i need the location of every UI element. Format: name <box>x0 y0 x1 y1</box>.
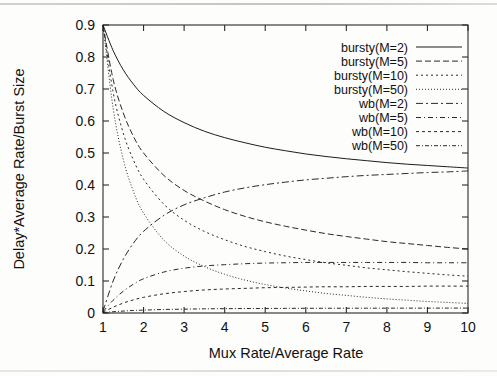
legend-label: wb(M=50) <box>351 139 408 153</box>
x-tick-label: 2 <box>140 319 148 335</box>
x-tick-label: 10 <box>460 319 476 335</box>
legend-label: wb(M=5) <box>358 111 408 125</box>
curve-wbm2 <box>103 171 468 311</box>
chart-legend: bursty(M=2)bursty(M=5)bursty(M=10)bursty… <box>334 41 462 154</box>
y-axis-tick-labels: 00.10.20.30.40.50.60.70.80.9 <box>76 17 96 321</box>
x-tick-label: 7 <box>342 319 350 335</box>
curve-burstym5 <box>103 25 468 249</box>
legend-label: bursty(M=5) <box>341 55 408 69</box>
chart-canvas: 00.10.20.30.40.50.60.70.80.9 12345678910… <box>0 0 497 376</box>
y-tick-label: 0.2 <box>76 241 96 257</box>
y-tick-label: 0.3 <box>76 209 96 225</box>
legend-label: bursty(M=2) <box>341 41 408 55</box>
legend-label: bursty(M=10) <box>334 69 408 83</box>
y-tick-label: 0.8 <box>76 49 96 65</box>
chart-figure: 00.10.20.30.40.50.60.70.80.9 12345678910… <box>0 0 497 376</box>
x-tick-label: 8 <box>383 319 391 335</box>
legend-label: bursty(M=50) <box>334 83 408 97</box>
legend-label: wb(M=2) <box>358 97 408 111</box>
curve-burstym2 <box>103 25 468 168</box>
x-tick-label: 3 <box>180 319 188 335</box>
curve-wbm50 <box>103 308 468 313</box>
y-tick-label: 0.5 <box>76 145 96 161</box>
y-tick-label: 0.9 <box>76 17 96 33</box>
curve-wbm5 <box>103 262 468 311</box>
x-axis-tick-labels: 12345678910 <box>99 319 476 335</box>
data-curves <box>103 25 468 313</box>
y-tick-label: 0 <box>87 305 95 321</box>
x-axis-title: Mux Rate/Average Rate <box>209 345 363 361</box>
x-tick-label: 6 <box>302 319 310 335</box>
y-tick-label: 0.6 <box>76 113 96 129</box>
x-tick-label: 1 <box>99 319 107 335</box>
y-tick-label: 0.1 <box>76 273 96 289</box>
x-tick-label: 5 <box>261 319 269 335</box>
legend-label: wb(M=10) <box>351 125 408 139</box>
x-tick-label: 4 <box>221 319 229 335</box>
y-tick-label: 0.4 <box>76 177 96 193</box>
y-axis-title: Delay*Average Rate/Burst Size <box>11 68 27 269</box>
x-tick-label: 9 <box>424 319 432 335</box>
y-tick-label: 0.7 <box>76 81 96 97</box>
